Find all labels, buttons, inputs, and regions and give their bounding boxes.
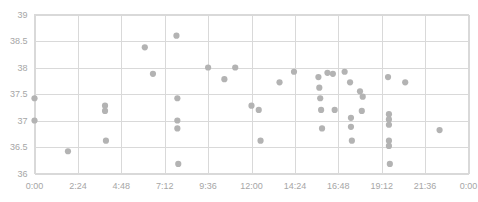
horizontal-gridlines (35, 16, 469, 175)
data-point (386, 143, 392, 149)
data-point (142, 44, 148, 50)
y-axis-tick-labels: 3636.53737.53838.539 (10, 10, 28, 179)
data-point (386, 122, 392, 128)
x-axis-tick-label: 12:00 (240, 181, 263, 191)
data-point (31, 95, 37, 101)
data-point (357, 88, 363, 94)
data-points-layer (31, 33, 442, 167)
x-axis-tick-label: 16:48 (327, 181, 350, 191)
y-axis-tick-label: 38 (17, 63, 27, 73)
data-point (315, 74, 321, 80)
data-point (348, 115, 354, 121)
data-point (317, 95, 323, 101)
data-point (102, 103, 108, 109)
data-point (342, 69, 348, 75)
data-point (386, 116, 392, 122)
y-axis-tick-label: 36.5 (10, 142, 28, 152)
data-point (232, 64, 238, 70)
x-axis-tick-label: 21:36 (414, 181, 437, 191)
data-point (221, 76, 227, 82)
data-point (150, 71, 156, 77)
x-axis-tick-label: 0:00 (460, 181, 478, 191)
x-axis-tick-label: 4:48 (113, 181, 131, 191)
data-point (65, 148, 71, 154)
y-axis-tick-label: 38.5 (10, 36, 28, 46)
data-point (319, 125, 325, 131)
data-point (291, 69, 297, 75)
data-point (348, 124, 354, 130)
x-axis-tick-label: 0:00 (26, 181, 44, 191)
data-point (360, 94, 366, 100)
data-point (318, 107, 324, 113)
x-axis-tick-labels: 0:002:244:487:129:3612:0014:2416:4819:12… (26, 181, 478, 191)
data-point (103, 138, 109, 144)
data-point (174, 117, 180, 123)
data-point (385, 74, 391, 80)
data-point (174, 95, 180, 101)
x-axis-tick-label: 14:24 (284, 181, 307, 191)
data-point (387, 161, 393, 167)
x-axis-tick-label: 2:24 (69, 181, 87, 191)
data-point (276, 79, 282, 85)
data-point (347, 79, 353, 85)
chart-canvas: 3636.53737.53838.539 0:002:244:487:129:3… (0, 0, 478, 202)
y-axis-tick-label: 39 (17, 10, 27, 20)
data-point (174, 125, 180, 131)
data-point (436, 127, 442, 133)
data-point (386, 111, 392, 117)
data-point (402, 79, 408, 85)
data-point (349, 138, 355, 144)
data-point (256, 107, 262, 113)
data-point (175, 161, 181, 167)
data-point (102, 108, 108, 114)
data-point (205, 64, 211, 70)
data-point (324, 70, 330, 76)
data-point (31, 117, 37, 123)
data-point (332, 107, 338, 113)
x-axis-tick-label: 19:12 (370, 181, 393, 191)
data-point (316, 85, 322, 91)
data-point (257, 138, 263, 144)
y-axis-tick-label: 36 (17, 169, 27, 179)
data-point (359, 108, 365, 114)
data-point (173, 33, 179, 39)
x-axis-tick-label: 7:12 (156, 181, 174, 191)
scatter-chart: 3636.53737.53838.539 0:002:244:487:129:3… (0, 0, 478, 202)
y-axis-tick-label: 37.5 (10, 89, 28, 99)
data-point (330, 71, 336, 77)
data-point (386, 138, 392, 144)
data-point (248, 103, 254, 109)
x-axis-tick-label: 9:36 (199, 181, 217, 191)
y-axis-tick-label: 37 (17, 116, 27, 126)
